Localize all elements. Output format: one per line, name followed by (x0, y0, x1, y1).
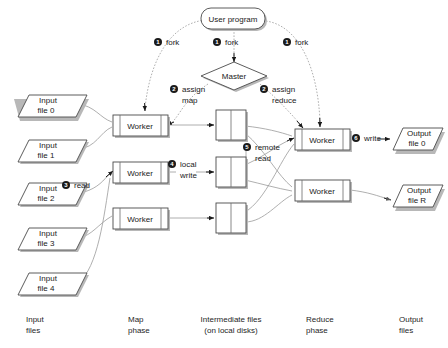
inter2-reduce1-arrow (287, 138, 294, 141)
input-file-2-label-line1: Input (39, 184, 58, 193)
step-5-remote-read-label-line1: remote (255, 143, 280, 152)
input2-arrowhead (106, 171, 113, 177)
step-6-write: 6 write (352, 134, 381, 143)
column-label-reduce-phase: Reduce phase (306, 315, 334, 335)
step-2-assign-map-label-line2: map (182, 96, 198, 105)
step-1-fork-middle: 1 fork (213, 38, 239, 47)
intermediate-file-2[interactable] (216, 203, 248, 235)
column-label-map-phase-line1: Map (128, 315, 144, 324)
map-worker-2-label: Worker (127, 215, 153, 224)
column-label-output-files-line1: Output (399, 315, 424, 324)
connector-group-reduce-to-output (350, 139, 391, 200)
step-1-fork-right-label: fork (295, 38, 309, 47)
inter3-to-reduce2 (245, 195, 292, 222)
column-label-input-files-line1: Input (26, 315, 45, 324)
column-label-output-files: Output files (399, 315, 424, 335)
step-4-local-write: 4 local write (168, 160, 197, 180)
user-program-node[interactable]: User program (201, 8, 267, 31)
step-2-assign-map: 2 assign map (170, 85, 205, 105)
reduce-worker-1[interactable]: Worker (295, 180, 352, 203)
step-1-fork-middle-label: fork (225, 38, 239, 47)
map-worker-0[interactable]: Worker (113, 115, 170, 138)
intermediate-file-1[interactable] (216, 157, 248, 189)
column-label-intermediate-files: Intermediate files (on local disks) (201, 315, 262, 335)
column-label-intermediate-files-line1: Intermediate files (201, 315, 262, 324)
step-2-assign-reduce-label-line1: assign (272, 85, 295, 94)
input-file-3-label-line2: file 3 (38, 239, 55, 248)
input-file-4[interactable]: Input file 4 (18, 273, 89, 297)
fork-left-line (145, 20, 205, 108)
map-worker-1-label: Worker (127, 169, 153, 178)
column-label-input-files: Input files (26, 315, 45, 335)
input-file-3[interactable]: Input file 3 (18, 228, 89, 252)
step-5-remote-read-label-line2: read (255, 154, 271, 163)
assign-reduce-arrowhead (297, 121, 303, 128)
input-file-2-label-line2: file 2 (38, 194, 55, 203)
step-2-assign-map-label-line1: assign (182, 85, 205, 94)
output-file-0-label-line2: file 0 (409, 139, 426, 148)
input-file-1-label-line2: file 1 (38, 151, 55, 160)
step-1-fork-right: 1 fork (283, 38, 309, 47)
output-file-0[interactable]: Output file 0 (393, 128, 445, 154)
output-file-R[interactable]: Output file R (393, 185, 445, 211)
step-1-fork-left: 1 fork (154, 38, 180, 47)
diagram-canvas: Input file 0 Input file 1 Input file 2 I… (0, 0, 448, 348)
step-4-local-write-label-line2: write (179, 171, 197, 180)
map-worker-2[interactable]: Worker (113, 208, 170, 231)
column-label-reduce-phase-line2: phase (306, 326, 328, 335)
reduce-worker-0-label: Worker (309, 136, 335, 145)
step-3-read-label: read (74, 181, 90, 190)
input-file-1-label-line1: Input (39, 141, 58, 150)
reduce2-to-outputR (350, 190, 388, 199)
column-label-output-files-line2: files (399, 326, 413, 335)
intermediate-file-0[interactable] (216, 110, 248, 142)
input-file-1[interactable]: Input file 1 (18, 140, 89, 164)
inter1-to-reduce1 (245, 126, 292, 136)
step-2-assign-reduce: 2 assign reduce (260, 85, 297, 105)
input-file-4-label-line1: Input (39, 274, 58, 283)
master-label: Master (222, 72, 247, 81)
input-file-3-label-line1: Input (39, 229, 58, 238)
column-label-reduce-phase-line1: Reduce (306, 315, 334, 324)
step-6-write-label: write (363, 134, 381, 143)
step-5-remote-read: 5 remote read (243, 143, 280, 163)
reduce-worker-1-label: Worker (309, 187, 335, 196)
map-worker-1[interactable]: Worker (113, 162, 170, 185)
output-file-R-label-line1: Output (407, 186, 432, 195)
reduce2-outputR-arrow (384, 198, 391, 200)
master-node[interactable]: Master (201, 62, 269, 92)
output-file-R-label-line2: file R (408, 196, 426, 205)
output-file-0-label-line1: Output (407, 129, 432, 138)
step-1-fork-left-label: fork (166, 38, 180, 47)
input-file-4-label-line2: file 4 (38, 284, 55, 293)
step-3-read: 3 read (62, 181, 90, 190)
fork-right-line (266, 21, 320, 122)
column-label-map-phase-line2: phase (128, 326, 150, 335)
user-program-label: User program (209, 15, 258, 24)
step-4-local-write-label-line1: local (180, 160, 197, 169)
input-file-0-label-line2: file 0 (38, 106, 55, 115)
input-file-0-label-line1: Input (39, 96, 58, 105)
column-label-map-phase: Map phase (128, 315, 150, 335)
map-worker-0-label: Worker (127, 122, 153, 131)
reduce-worker-0[interactable]: Worker (295, 129, 352, 152)
input-file-0[interactable]: Input file 0 (14, 95, 89, 121)
column-label-input-files-line2: files (26, 326, 40, 335)
column-label-intermediate-files-line2: (on local disks) (204, 326, 258, 335)
step-2-assign-reduce-label-line2: reduce (272, 96, 297, 105)
mapreduce-diagram: Input file 0 Input file 1 Input file 2 I… (0, 0, 448, 348)
connector-group-intermediate-to-reduce (245, 126, 294, 222)
